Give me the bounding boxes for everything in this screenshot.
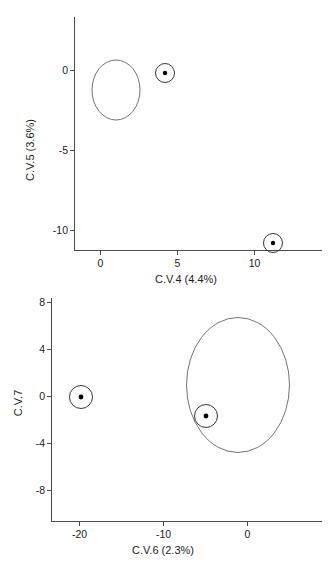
scatter-plot-cv4-cv5: 0 -5 -10 0 5 10 C.V.4 (4.4%) C.V.5 (3.6%… (0, 0, 331, 290)
x-tick-label-neg10: -10 (156, 528, 171, 540)
chart-panel-bottom-canvas: 8 4 0 -4 -8 -20 -10 0 C.V.6 (2.3%) C.V.7 (0, 290, 331, 579)
point-center-dot (271, 241, 275, 245)
x-axis-ticks-top: 0 5 10 (98, 251, 261, 270)
x-tick-label-5: 5 (175, 257, 181, 269)
y-tick-label-0: 0 (39, 390, 45, 402)
data-point-marker (264, 234, 283, 253)
x-tick-label-neg20: -20 (72, 528, 87, 540)
data-point-marker (70, 386, 93, 409)
axes-frame (75, 17, 323, 251)
point-center-dot (163, 71, 167, 75)
y-tick-label-0: 0 (62, 64, 68, 76)
y-tick-label-8: 8 (39, 296, 45, 308)
point-center-dot (79, 395, 84, 400)
y-axis-ticks-top: 0 -5 -10 (53, 64, 75, 236)
y-axis-title-bottom: C.V.7 (12, 390, 24, 417)
axes-frame (52, 298, 323, 522)
y-tick-label-neg5: -5 (59, 144, 68, 156)
scatter-plot-cv6-cv7-svg: 8 4 0 -4 -8 -20 -10 0 C.V.6 (2.3%) C.V.7 (0, 290, 331, 579)
x-tick-label-0: 0 (98, 257, 104, 269)
confidence-ellipse (187, 318, 290, 453)
data-point-marker (156, 64, 175, 83)
y-tick-label-neg8: -8 (36, 484, 45, 496)
point-center-dot (204, 414, 209, 419)
chart-panel-top: 0 -5 -10 0 5 10 C.V.4 (4.4%) C.V.5 (3.6%… (0, 0, 331, 290)
y-tick-label-neg4: -4 (36, 437, 45, 449)
x-axis-title-top: C.V.4 (4.4%) (155, 273, 217, 285)
y-axis-ticks-bottom: 8 4 0 -4 -8 (36, 296, 52, 496)
data-point-marker (195, 405, 218, 428)
y-tick-label-4: 4 (39, 343, 45, 355)
x-tick-label-10: 10 (249, 257, 261, 269)
y-tick-label-neg10: -10 (53, 224, 68, 236)
x-axis-ticks-bottom: -20 -10 0 (72, 522, 251, 541)
confidence-ellipse (92, 60, 140, 120)
x-tick-label-0: 0 (245, 528, 251, 540)
y-axis-title-top: C.V.5 (3.6%) (24, 119, 36, 181)
x-axis-title-bottom: C.V.6 (2.3%) (132, 544, 194, 556)
